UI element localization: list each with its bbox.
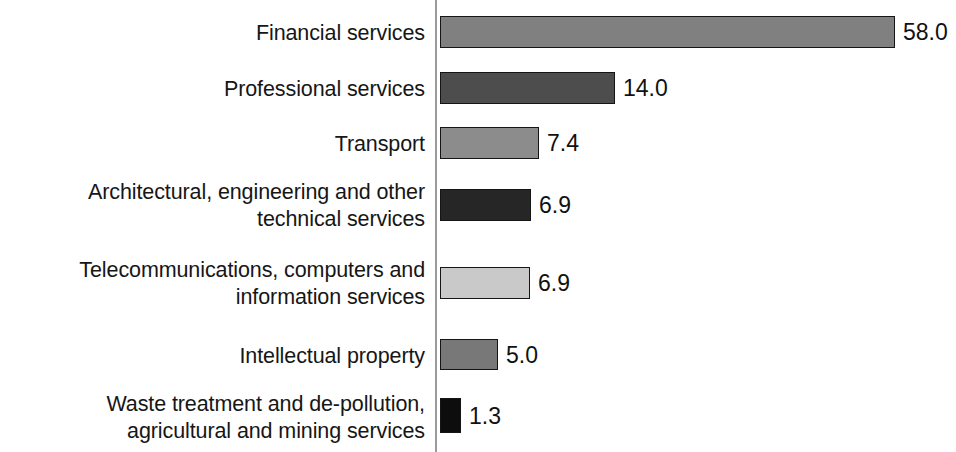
plot-area: 58.014.07.46.96.95.01.3 bbox=[0, 0, 956, 452]
bar-chart: Financial servicesProfessional servicesT… bbox=[0, 0, 956, 452]
bar bbox=[440, 127, 539, 159]
bar-value-label: 5.0 bbox=[506, 344, 538, 367]
bar bbox=[440, 16, 895, 48]
bar bbox=[440, 189, 531, 221]
bar-value-label: 58.0 bbox=[903, 21, 948, 44]
bar-value-label: 6.9 bbox=[539, 194, 571, 217]
bar bbox=[440, 339, 498, 370]
bar bbox=[440, 72, 615, 104]
bar-value-label: 1.3 bbox=[469, 405, 501, 428]
value-axis-line bbox=[435, 0, 437, 452]
bar-value-label: 7.4 bbox=[547, 132, 579, 155]
bar bbox=[440, 398, 461, 433]
bar-value-label: 6.9 bbox=[538, 272, 570, 295]
bar bbox=[440, 267, 530, 299]
bar-value-label: 14.0 bbox=[623, 77, 668, 100]
